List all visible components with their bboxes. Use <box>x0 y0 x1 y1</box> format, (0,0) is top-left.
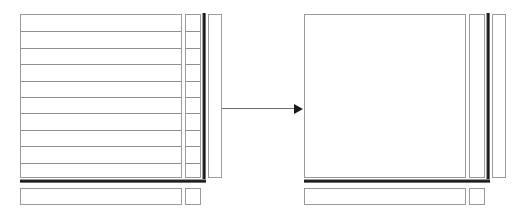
after-tall-rectangle <box>492 14 506 178</box>
arrow-shaft <box>222 108 296 109</box>
row-divider <box>186 31 200 32</box>
before-panel <box>0 0 240 213</box>
row-divider <box>21 163 181 164</box>
row-divider <box>186 130 200 131</box>
row-divider <box>21 48 181 49</box>
row-divider <box>186 163 200 164</box>
after-grid-block <box>304 14 466 178</box>
before-grid-block <box>20 14 182 178</box>
row-divider <box>21 64 181 65</box>
row-divider <box>186 97 200 98</box>
diagram-canvas <box>0 0 520 213</box>
row-divider <box>21 113 181 114</box>
row-divider <box>186 48 200 49</box>
after-bottom-square <box>469 188 485 205</box>
before-side-column <box>185 14 201 178</box>
before-thick-horizontal-rule <box>20 179 206 183</box>
row-divider <box>21 31 181 32</box>
before-bottom-strip <box>20 188 182 205</box>
after-side-column <box>469 14 485 178</box>
row-divider <box>186 81 200 82</box>
before-bottom-square <box>185 188 201 205</box>
row-divider <box>21 146 181 147</box>
row-divider <box>21 81 181 82</box>
before-tall-rectangle <box>208 14 222 178</box>
row-divider <box>186 64 200 65</box>
row-divider <box>21 97 181 98</box>
after-thick-horizontal-rule <box>304 179 490 183</box>
after-bottom-strip <box>304 188 466 205</box>
row-divider <box>186 146 200 147</box>
after-thick-vertical-rule <box>486 13 490 183</box>
after-panel <box>290 0 520 213</box>
before-thick-vertical-rule <box>202 13 206 183</box>
row-divider <box>21 130 181 131</box>
row-divider <box>186 113 200 114</box>
